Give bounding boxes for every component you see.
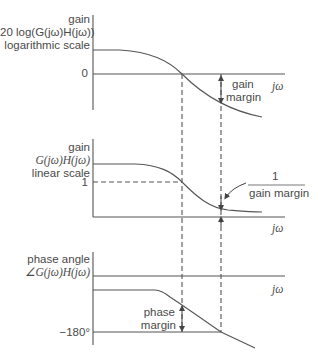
phase-margin-label-2: margin: [130, 319, 176, 332]
middle-xlabel: jω: [272, 222, 283, 235]
middle-gain-curve: [93, 164, 262, 212]
middle-ylabel-gain: gain: [2, 141, 90, 154]
bottom-tick-minus180: −180°: [40, 326, 90, 339]
fraction-numerator: 1: [272, 170, 278, 183]
middle-tick-one: 1: [60, 176, 88, 189]
phase-margin-label-1: phase: [135, 306, 175, 319]
top-xlabel: jω: [272, 80, 283, 93]
gain-margin-label-2: margin: [226, 91, 261, 104]
bottom-ylabel-phase: phase angle: [2, 253, 90, 266]
top-ylabel-expression: 20 log(G(jω)H(jω)): [0, 26, 92, 39]
top-ylabel-scale: logarithmic scale: [0, 39, 90, 52]
bottom-ylabel-expression: ∠G(jω)H(jω): [2, 266, 90, 279]
gain-margin-label-1: gain: [232, 78, 254, 91]
top-ylabel-gain: gain: [2, 13, 90, 26]
top-tick-zero: 0: [60, 67, 88, 80]
middle-ylabel-expression: G(jω)H(jω): [2, 154, 90, 167]
bottom-xlabel: jω: [272, 283, 283, 296]
leader-arrow: [226, 183, 246, 197]
fraction-denominator: gain margin: [249, 187, 309, 200]
